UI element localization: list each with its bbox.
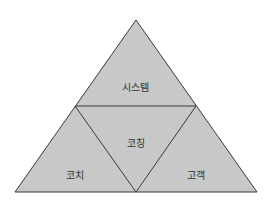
section-label-bottom-left: 코치 <box>66 170 84 181</box>
section-label-top: 시스템 <box>122 82 149 93</box>
section-label-bottom-right: 고객 <box>187 170 205 181</box>
triangle-diagram: 시스템 코칭 코치 고객 <box>0 0 274 206</box>
section-label-center: 코칭 <box>127 138 145 149</box>
